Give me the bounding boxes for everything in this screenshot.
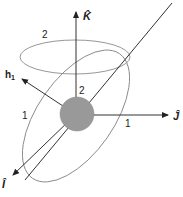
i-axis <box>13 118 72 175</box>
central-body <box>60 97 94 131</box>
orbit-2-inner-label: 2 <box>79 85 85 96</box>
orbit-2-ellipse <box>20 40 130 74</box>
h1-vector <box>22 79 66 108</box>
orbit-diagram: K̂ Ĵ Î h1 2 2 1 1 <box>0 0 183 197</box>
orbit-1-right-label: 1 <box>125 118 131 129</box>
h1-label: h1 <box>5 69 15 81</box>
h1-label-sub: 1 <box>11 74 15 81</box>
k-axis-label: K̂ <box>83 10 92 22</box>
i-axis-label: Î <box>2 178 7 190</box>
j-axis-label: Ĵ <box>173 110 180 122</box>
orbit-1-left-label: 1 <box>22 110 28 121</box>
orbit-2-label: 2 <box>42 29 48 40</box>
